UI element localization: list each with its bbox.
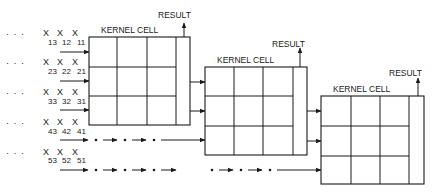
- delay-dot: [211, 169, 214, 172]
- x-symbol: X: [72, 87, 78, 97]
- kernel-cell-diagram: · · · X 13 X 12 X 11 · · · X 23 X 22 X 2…: [0, 0, 447, 196]
- kernel-cell-label: KERNEL CELL: [333, 84, 391, 94]
- stage-1-to-2-arrows: [190, 82, 205, 111]
- input-row-1: · · · X 13 X 12 X 11: [6, 28, 86, 47]
- x-symbol: X: [57, 57, 63, 67]
- result-label: RESULT: [158, 10, 191, 20]
- x-symbol: X: [43, 28, 49, 38]
- kernel-cell-2: KERNEL CELL RESULT: [205, 39, 307, 155]
- subscript: 52: [62, 156, 71, 165]
- delay-dot: [269, 169, 272, 172]
- delay-chain-row-4: [60, 139, 205, 142]
- leader-dots: · · ·: [6, 88, 25, 98]
- subscript: 32: [62, 97, 71, 106]
- delay-dot: [95, 169, 98, 172]
- stage-2-to-3-arrows: [307, 111, 321, 141]
- subscript: 21: [77, 67, 86, 76]
- kernel-cell-1: KERNEL CELL RESULT: [89, 10, 191, 125]
- delay-dot: [124, 139, 127, 142]
- subscript: 41: [77, 127, 86, 136]
- x-symbol: X: [43, 87, 49, 97]
- subscript: 12: [62, 38, 71, 47]
- kernel-cell-frame: [89, 37, 190, 125]
- delay-dot: [124, 169, 127, 172]
- x-symbol: X: [43, 117, 49, 127]
- subscript: 42: [62, 127, 71, 136]
- result-label: RESULT: [389, 68, 422, 78]
- delay-dot: [95, 139, 98, 142]
- kernel-cell-label: KERNEL CELL: [101, 25, 159, 35]
- subscript: 11: [77, 38, 86, 47]
- x-symbol: X: [57, 117, 63, 127]
- subscript: 23: [48, 67, 57, 76]
- subscript: 51: [77, 156, 86, 165]
- delay-dot: [240, 169, 243, 172]
- x-symbol: X: [57, 28, 63, 38]
- kernel-cell-frame: [205, 67, 307, 155]
- leader-dots: · · ·: [6, 58, 25, 68]
- delay-chain-row-5: [60, 169, 321, 172]
- input-row-2: · · · X 23 X 22 X 21: [6, 57, 86, 76]
- input-row-5: · · · X 53 X 52 X 51: [6, 147, 86, 165]
- subscript: 13: [48, 38, 57, 47]
- x-symbol: X: [72, 117, 78, 127]
- kernel-cell-3: KERNEL CELL RESULT: [321, 68, 424, 184]
- kernel-cell-label: KERNEL CELL: [217, 55, 275, 65]
- subscript: 43: [48, 127, 57, 136]
- subscript: 22: [62, 67, 71, 76]
- x-symbol: X: [57, 87, 63, 97]
- delay-dot: [153, 169, 156, 172]
- x-symbol: X: [43, 57, 49, 67]
- subscript: 53: [48, 156, 57, 165]
- leader-dots: · · ·: [6, 118, 25, 128]
- x-symbol: X: [72, 57, 78, 67]
- subscript: 31: [77, 97, 86, 106]
- result-label: RESULT: [272, 39, 305, 49]
- x-symbol: X: [72, 28, 78, 38]
- delay-dot: [153, 139, 156, 142]
- subscript: 33: [48, 97, 57, 106]
- input-row-3: · · · X 33 X 32 X 31: [6, 87, 86, 106]
- input-row-4: · · · X 43 X 42 X 41: [6, 117, 86, 136]
- leader-dots: · · ·: [6, 148, 25, 158]
- leader-dots: · · ·: [6, 29, 25, 39]
